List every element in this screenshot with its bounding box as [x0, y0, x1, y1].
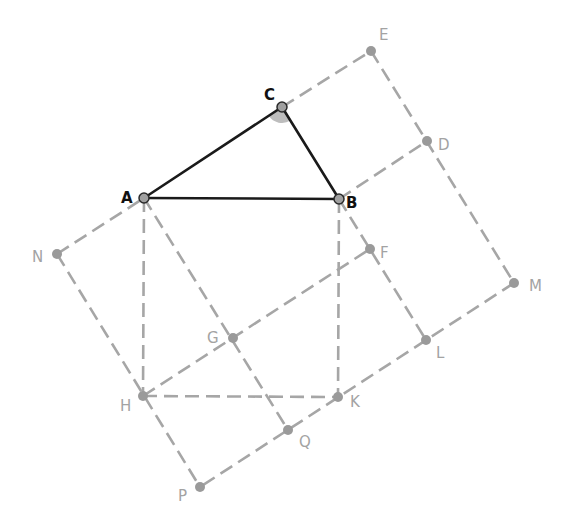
point-a: [139, 193, 149, 203]
triangle-abc: [144, 107, 339, 199]
point-f: [365, 244, 375, 254]
geometry-figure: ABCEDMFLKQPHGN: [0, 0, 571, 529]
dashed-line-c-e: [282, 51, 371, 107]
label-f: F: [380, 244, 389, 262]
label-g: G: [207, 329, 219, 347]
point-k: [333, 392, 343, 402]
point-n: [52, 249, 62, 259]
label-m: M: [529, 277, 542, 295]
point-d: [422, 136, 432, 146]
dashed-line-h-k: [143, 396, 338, 397]
dashed-line-b-k: [338, 199, 339, 397]
dashed-line-b-d: [339, 141, 427, 199]
point-q: [283, 425, 293, 435]
side-b-c: [282, 107, 339, 199]
label-a: A: [121, 189, 133, 207]
dashed-line-e-m: [371, 51, 514, 283]
label-e: E: [379, 26, 388, 44]
point-h: [138, 391, 148, 401]
label-k: K: [350, 393, 361, 411]
label-n: N: [32, 248, 43, 266]
dashed-line-n-p: [57, 254, 200, 487]
point-b: [334, 194, 344, 204]
figure-canvas: ABCEDMFLKQPHGN: [0, 0, 571, 529]
dashed-line-a-h: [143, 198, 144, 396]
point-c: [277, 102, 287, 112]
dashed-line-m-p: [200, 283, 514, 487]
point-g: [228, 333, 238, 343]
label-h: H: [120, 397, 131, 415]
side-a-b: [144, 198, 339, 199]
point-m: [509, 278, 519, 288]
point-l: [421, 335, 431, 345]
point-p: [195, 482, 205, 492]
label-p: P: [178, 487, 187, 505]
label-c: C: [264, 86, 275, 104]
label-q: Q: [299, 433, 311, 451]
point-e: [366, 46, 376, 56]
label-d: D: [438, 136, 450, 154]
dashed-line-b-l: [339, 199, 426, 340]
side-c-a: [144, 107, 282, 198]
label-b: B: [346, 194, 357, 212]
dashed-line-h-f: [143, 249, 370, 396]
label-l: L: [436, 344, 445, 362]
